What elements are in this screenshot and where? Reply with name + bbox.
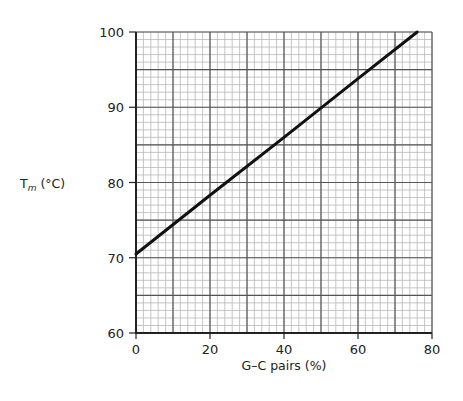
chart: 02040608060708090100 G–C pairs (%) Tm (°… [0,0,463,401]
y-tick-label: 90 [107,100,124,115]
x-tick-label: 20 [202,342,219,357]
y-label-main: T [19,176,28,191]
y-label-unit: (°C) [36,176,65,191]
y-tick-label: 80 [107,176,124,191]
y-tick-label: 70 [107,251,124,266]
y-label-sub: m [28,183,37,193]
x-tick-label: 0 [132,342,140,357]
x-tick-label: 80 [424,342,441,357]
x-axis-label: G–C pairs (%) [242,358,327,373]
y-tick-label: 60 [107,326,124,341]
y-axis-label: Tm (°C) [19,176,65,193]
x-tick-label: 40 [276,342,293,357]
axes [129,32,432,339]
x-tick-label: 60 [350,342,367,357]
y-tick-label: 100 [99,25,124,40]
tick-labels: 02040608060708090100 [99,25,440,357]
